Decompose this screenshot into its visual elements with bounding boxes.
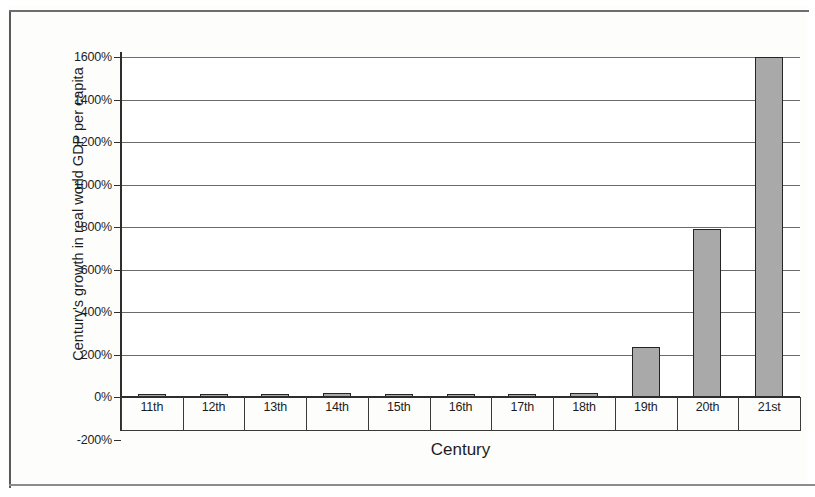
x-axis-title: Century	[121, 440, 800, 460]
y-axis-tick-label: 1000%	[0, 179, 112, 192]
gridline	[121, 227, 800, 228]
y-axis-tick-label: 0%	[0, 391, 112, 404]
x-axis-tick-label: 20th	[677, 401, 739, 414]
y-axis-tick	[114, 227, 121, 228]
gridline	[121, 185, 800, 186]
y-axis-tick	[114, 100, 121, 101]
x-axis-tick-label: 15th	[368, 401, 430, 414]
x-axis-tick-label: 19th	[615, 401, 677, 414]
y-axis-tick	[114, 312, 121, 313]
x-axis-line-baseline	[121, 430, 800, 431]
y-axis-tick	[114, 355, 121, 356]
x-axis-tick-label: 21st	[738, 401, 800, 414]
y-axis-tick	[114, 185, 121, 186]
bar-21st	[755, 57, 783, 397]
y-axis-tick-label: -200%	[0, 434, 112, 447]
x-axis-line-zero	[121, 396, 800, 398]
x-axis-tick	[800, 397, 801, 431]
x-axis-tick-label: 17th	[491, 401, 553, 414]
x-axis-tick-label: 14th	[306, 401, 368, 414]
gridline	[121, 142, 800, 143]
y-axis-tick-label: 1600%	[0, 51, 112, 64]
plot-area	[121, 57, 800, 397]
y-axis-tick	[114, 142, 121, 143]
x-axis-tick-label: 13th	[244, 401, 306, 414]
y-axis-tick-label: 800%	[0, 221, 112, 234]
bar-20th	[693, 229, 721, 397]
y-axis-tick	[114, 270, 121, 271]
bar-chart: Century's growth in real world GDP per c…	[0, 0, 815, 497]
y-axis-tick-labels: 1600%1400%1200%1000%800%600%400%200%0%-2…	[0, 0, 112, 497]
x-axis-tick-label: 18th	[553, 401, 615, 414]
y-axis-tick-label: 1200%	[0, 136, 112, 149]
y-axis-tick-label: 400%	[0, 306, 112, 319]
y-axis-tick-label: 600%	[0, 264, 112, 277]
x-axis-tick-label: 16th	[430, 401, 492, 414]
y-axis-tick	[114, 57, 121, 58]
y-axis-tick-label: 200%	[0, 349, 112, 362]
gridline	[121, 100, 800, 101]
y-axis-line	[120, 52, 122, 431]
gridline	[121, 57, 800, 58]
y-axis-tick	[114, 397, 121, 398]
bar-19th	[632, 347, 660, 397]
x-axis-tick-label: 11th	[121, 401, 183, 414]
x-axis-tick-label: 12th	[183, 401, 245, 414]
y-axis-tick	[114, 440, 121, 441]
y-axis-tick-label: 1400%	[0, 94, 112, 107]
